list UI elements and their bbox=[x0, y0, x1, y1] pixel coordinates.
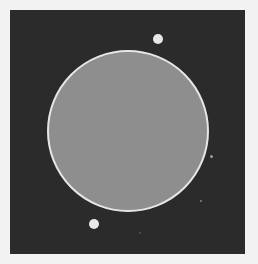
star-speck bbox=[139, 232, 141, 234]
star-speck bbox=[210, 155, 213, 158]
moon bbox=[89, 219, 99, 229]
moon bbox=[153, 34, 163, 44]
planet-disc bbox=[47, 50, 209, 212]
